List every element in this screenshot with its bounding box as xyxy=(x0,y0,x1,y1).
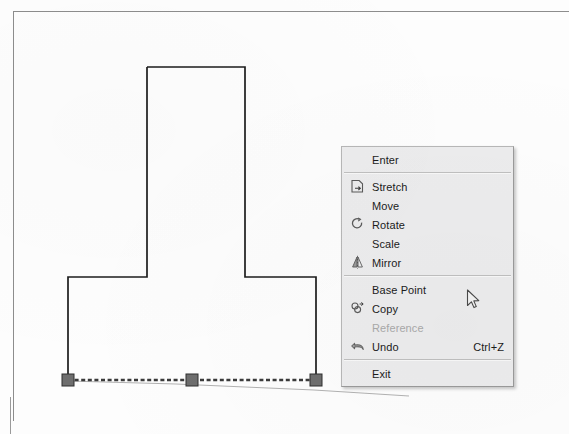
copy-icon xyxy=(346,300,368,317)
no-icon xyxy=(346,235,368,252)
cad-screenshot-root: EnterStretchMoveRotateScaleMirrorBase Po… xyxy=(0,0,569,434)
stretch-icon xyxy=(346,178,368,195)
menu-item-enter[interactable]: Enter xyxy=(342,150,513,169)
grip-left xyxy=(62,374,74,386)
rotate-icon xyxy=(346,216,368,233)
menu-separator xyxy=(344,275,511,277)
menu-item-label: Undo xyxy=(368,341,473,353)
menu-item-label: Base Point xyxy=(368,284,504,296)
stretch-context-menu[interactable]: EnterStretchMoveRotateScaleMirrorBase Po… xyxy=(341,146,514,387)
menu-item-shortcut: Ctrl+Z xyxy=(473,341,513,353)
menu-item-label: Scale xyxy=(368,238,504,250)
menu-item-exit[interactable]: Exit xyxy=(342,364,513,383)
undo-icon xyxy=(346,338,368,355)
no-icon xyxy=(346,319,368,336)
no-icon xyxy=(346,197,368,214)
menu-item-base-point[interactable]: Base Point xyxy=(342,280,513,299)
grip-right xyxy=(310,374,322,386)
page-border-left-lower xyxy=(10,397,11,434)
menu-separator xyxy=(344,359,511,361)
menu-item-label: Mirror xyxy=(368,257,504,269)
inverted-t-shape xyxy=(68,67,316,380)
no-icon xyxy=(346,151,368,168)
menu-item-reference: Reference xyxy=(342,318,513,337)
menu-separator xyxy=(344,172,511,174)
menu-item-stretch[interactable]: Stretch xyxy=(342,177,513,196)
menu-item-label: Stretch xyxy=(368,181,504,193)
menu-item-label: Move xyxy=(368,200,504,212)
menu-item-label: Exit xyxy=(368,368,504,380)
menu-item-copy[interactable]: Copy xyxy=(342,299,513,318)
mirror-icon xyxy=(346,254,368,271)
no-icon xyxy=(346,281,368,298)
menu-item-label: Enter xyxy=(368,154,504,166)
menu-item-mirror[interactable]: Mirror xyxy=(342,253,513,272)
menu-item-scale[interactable]: Scale xyxy=(342,234,513,253)
no-icon xyxy=(346,365,368,382)
grip-middle xyxy=(186,374,198,386)
menu-item-label: Reference xyxy=(368,322,504,334)
menu-item-rotate[interactable]: Rotate xyxy=(342,215,513,234)
menu-item-move[interactable]: Move xyxy=(342,196,513,215)
menu-item-undo[interactable]: UndoCtrl+Z xyxy=(342,337,513,356)
menu-item-label: Rotate xyxy=(368,219,504,231)
menu-item-label: Copy xyxy=(368,303,504,315)
